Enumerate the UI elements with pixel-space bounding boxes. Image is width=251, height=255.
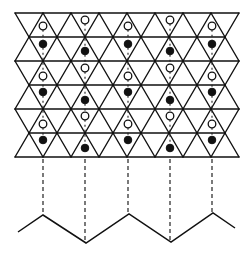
open-atom-icon	[124, 120, 132, 128]
lattice-diagonal	[155, 61, 169, 85]
lattice-diagonal	[183, 109, 197, 133]
open-atom-icon	[124, 22, 132, 30]
triangular-lattice	[15, 13, 239, 157]
filled-atom-icon	[208, 88, 216, 96]
lattice-diagonal	[197, 85, 211, 109]
lattice-diagonal	[57, 13, 71, 37]
open-atom-icon	[39, 120, 47, 128]
lattice-diagonal	[141, 133, 155, 157]
lattice-diagonal	[197, 133, 211, 157]
lattice-diagonal	[183, 85, 197, 109]
lattice-diagonal	[225, 109, 239, 133]
lattice-diagonal	[141, 109, 155, 133]
lattice-diagonal	[15, 37, 29, 61]
open-atom-icon	[39, 22, 47, 30]
filled-atom-icon	[81, 96, 89, 104]
lattice-diagonal	[15, 13, 29, 37]
lattice-diagonal	[183, 61, 197, 85]
lattice-diagonal	[57, 61, 71, 85]
lattice-diagonal	[197, 37, 211, 61]
lattice-diagonal	[225, 13, 239, 37]
filled-atom-icon	[124, 136, 132, 144]
lattice-diagonal	[57, 85, 71, 109]
lattice-diagonal	[113, 133, 127, 157]
open-atom-icon	[166, 16, 174, 24]
lattice-diagonal	[15, 109, 29, 133]
filled-atom-icon	[39, 88, 47, 96]
filled-atom-icon	[208, 136, 216, 144]
lattice-diagonal	[99, 37, 113, 61]
lattice-diagonal	[99, 13, 113, 37]
filled-atom-icon	[124, 40, 132, 48]
open-atom-icon	[166, 64, 174, 72]
lattice-diagonal	[113, 85, 127, 109]
lattice-diagonal	[141, 85, 155, 109]
open-atom-icon	[124, 72, 132, 80]
lattice-diagonal	[141, 13, 155, 37]
open-atom-icon	[208, 120, 216, 128]
filled-atom-icon	[208, 40, 216, 48]
open-atom-icon	[208, 72, 216, 80]
lattice-diagonal	[15, 85, 29, 109]
filled-atom-icon	[39, 136, 47, 144]
open-atom-icon	[81, 64, 89, 72]
open-atom-icon	[166, 112, 174, 120]
lattice-diagonal	[99, 85, 113, 109]
lattice-diagonal	[57, 109, 71, 133]
filled-atom-icon	[166, 96, 174, 104]
filled-atom-icon	[81, 47, 89, 55]
lattice-diagonal	[225, 61, 239, 85]
lattice-diagonal	[141, 61, 155, 85]
lattice-diagonal	[15, 133, 29, 157]
open-atom-icon	[81, 16, 89, 24]
filled-atom-icon	[166, 47, 174, 55]
lattice-diagonal	[183, 37, 197, 61]
lattice-diagonal	[155, 109, 169, 133]
filled-atom-icon	[81, 144, 89, 152]
lattice-diagonal	[155, 13, 169, 37]
lattice-diagonal	[57, 133, 71, 157]
filled-atom-icon	[166, 144, 174, 152]
filled-atom-icon	[124, 88, 132, 96]
open-atom-icon	[39, 72, 47, 80]
lattice-diagonal	[99, 109, 113, 133]
lattice-diagonal	[155, 133, 169, 157]
lattice-diagonal	[15, 61, 29, 85]
lattice-diagonal	[225, 37, 239, 61]
zigzag-chain	[18, 213, 235, 243]
lattice-diagonal	[99, 61, 113, 85]
lattice-diagonal	[183, 133, 197, 157]
lattice-diagonal	[99, 133, 113, 157]
lattice-diagonal	[225, 133, 239, 157]
lattice-diagonal	[155, 85, 169, 109]
filled-atom-icon	[39, 40, 47, 48]
lattice-diagonal	[57, 37, 71, 61]
open-atom-icon	[208, 22, 216, 30]
lattice-projection-diagram	[0, 0, 251, 255]
lattice-diagonal	[141, 37, 155, 61]
open-atom-icon	[81, 112, 89, 120]
lattice-diagonal	[113, 37, 127, 61]
lattice-diagonal	[225, 85, 239, 109]
lattice-diagonal	[183, 13, 197, 37]
